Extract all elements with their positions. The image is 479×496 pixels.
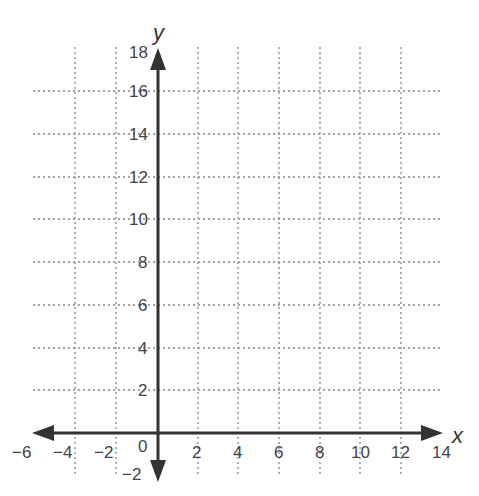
y-tick: 4 xyxy=(138,339,147,358)
y-tick: 6 xyxy=(138,296,147,315)
y-axis xyxy=(150,48,166,482)
x-tick: 6 xyxy=(274,443,283,462)
origin-label: 0 xyxy=(138,437,147,456)
x-tick: 14 xyxy=(432,443,451,462)
x-tick: 2 xyxy=(192,443,201,462)
x-tick: 8 xyxy=(315,443,324,462)
y-axis-label: y xyxy=(151,20,166,45)
x-tick: 4 xyxy=(233,443,242,462)
x-tick: −2 xyxy=(94,443,113,462)
x-axis-label: x xyxy=(451,423,464,448)
x-axis-right-arrow-icon xyxy=(421,425,443,441)
y-tick: 10 xyxy=(129,210,148,229)
x-tick: 12 xyxy=(391,443,410,462)
y-axis-up-arrow-icon xyxy=(150,48,166,70)
y-tick: 18 xyxy=(129,43,148,62)
y-tick: 14 xyxy=(129,125,148,144)
y-axis-down-arrow-icon xyxy=(150,460,166,482)
y-tick-labels: 18 16 14 12 10 8 6 4 2 −2 xyxy=(122,43,148,484)
x-axis-left-arrow-icon xyxy=(32,425,54,441)
y-tick: 2 xyxy=(138,381,147,400)
x-tick-labels: −6 −4 −2 0 2 4 6 8 10 12 14 xyxy=(12,437,451,462)
coordinate-plane: x y −6 −4 −2 0 2 4 6 8 10 12 14 18 16 14… xyxy=(0,0,479,496)
y-tick: 16 xyxy=(129,82,148,101)
grid xyxy=(33,47,440,475)
x-tick: −6 xyxy=(12,443,31,462)
y-tick: 12 xyxy=(129,168,148,187)
x-tick: 10 xyxy=(351,443,370,462)
y-tick: −2 xyxy=(122,465,141,484)
x-tick: −4 xyxy=(53,443,72,462)
y-tick: 8 xyxy=(138,253,147,272)
